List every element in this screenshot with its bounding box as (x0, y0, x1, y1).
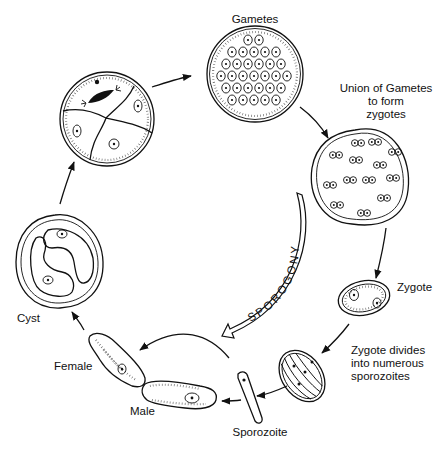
gamete-nucleus (225, 63, 227, 65)
gamete-nucleus (220, 75, 222, 77)
sporozoite-cell (238, 372, 262, 423)
gamete-nucleus (275, 75, 277, 77)
label-gametes: Gametes (232, 13, 279, 25)
gamete-nucleus (264, 51, 266, 53)
zygote-pair-nucleus (380, 197, 382, 199)
gamete-nucleus (242, 51, 244, 53)
zygote-pair-nucleus (352, 159, 354, 161)
gamete-nucleus (242, 99, 244, 101)
centrosome (95, 80, 99, 84)
zygote-pair-nucleus (346, 179, 348, 181)
zygote-pair-nucleus (382, 164, 384, 166)
label-divides-2: into numerous (351, 357, 424, 369)
arrow-to-male (222, 400, 241, 401)
mitotic-spindle-icon (81, 85, 121, 107)
gamete-nucleus (286, 75, 288, 77)
zygote-pair-nucleus (386, 197, 388, 199)
gamete-nucleus (231, 75, 233, 77)
zygote-pair-nucleus (326, 184, 328, 186)
gamete-nucleus (236, 63, 238, 65)
gamete-nucleus (264, 99, 266, 101)
gamete-nucleus (280, 63, 282, 65)
zygote-pair-nucleus (366, 212, 368, 214)
label-sporogony-text: SPOROGONY (245, 243, 300, 324)
cyst-organism (31, 237, 74, 296)
arrow-to-zygotes (300, 107, 328, 138)
zygote-pair-nucleus (376, 164, 378, 166)
gamete-nucleus (247, 39, 249, 41)
gamete-nucleus (280, 87, 282, 89)
dividing-cell (60, 72, 154, 166)
zygote-pair-nucleus (338, 154, 340, 156)
label-cyst: Cyst (17, 312, 41, 324)
gamete-nucleus (225, 87, 227, 89)
gamete-nucleus (253, 75, 255, 77)
label-sporozoite: Sporozoite (233, 426, 288, 438)
gamete-nucleus (253, 99, 255, 101)
gamete-nucleus (236, 87, 238, 89)
zygote-pair-nucleus (389, 177, 391, 179)
gamete-nucleus (242, 75, 244, 77)
zygote-pair-nucleus (391, 151, 393, 153)
zygote-pair-nucleus (339, 204, 341, 206)
gamete-nucleus (269, 63, 271, 65)
gamete-nucleus (258, 63, 260, 65)
arrow-to-female (140, 334, 229, 358)
zygote-pair-nucleus (365, 179, 367, 181)
gamete-nucleus (275, 99, 277, 101)
gamete-nucleus (264, 75, 266, 77)
zygote-pair-nucleus (354, 142, 356, 144)
division-line (106, 118, 152, 133)
zygote-cell (335, 276, 393, 320)
arrow-to-sporocyst (322, 324, 349, 353)
zygote-pair-nucleus (360, 212, 362, 214)
label-divides-3: sporozoites (351, 370, 410, 382)
label-union-3: zygotes (366, 108, 406, 120)
label-female: Female (54, 360, 92, 372)
arrow-to-cyst (72, 312, 84, 330)
gamete-nucleus (247, 63, 249, 65)
gamete-nucleus (258, 39, 260, 41)
zygote-pair-nucleus (371, 141, 373, 143)
gamete-nucleus (275, 51, 277, 53)
label-zygote: Zygote (397, 281, 432, 293)
gamete-nuclei (217, 35, 291, 105)
gamete-nucleus (258, 87, 260, 89)
gamete-nucleus (231, 51, 233, 53)
female-gametocyte (89, 333, 145, 386)
zygote-pairs (324, 139, 402, 217)
gamete-nucleus (231, 99, 233, 101)
arrow-to-sporozoite (257, 386, 287, 396)
zygote-pair-nucleus (360, 142, 362, 144)
zygote-pair-nucleus (333, 204, 335, 206)
label-union-2: to form (368, 95, 404, 107)
zygote-pair-nucleus (397, 151, 399, 153)
life-cycle-diagram: Gametes Union of Gametes to form zygotes… (0, 0, 437, 456)
label-sporogony: SPOROGONY (245, 243, 300, 324)
arrow-to-gametes (152, 76, 191, 87)
zygote-pair-nucleus (371, 179, 373, 181)
label-male: Male (130, 405, 155, 417)
gamete-nucleus (269, 87, 271, 89)
zygote-pair-nucleus (377, 141, 379, 143)
arrow-to-dividing-cell (60, 162, 74, 204)
arrow-to-zygote (376, 228, 386, 278)
sporocyst-cell (270, 342, 335, 411)
zygote-pair-nucleus (395, 177, 397, 179)
zygotes-cell (311, 129, 408, 225)
gamete-nucleus (253, 51, 255, 53)
label-divides-1: Zygote divides (351, 344, 425, 356)
zygote-pair-nucleus (332, 184, 334, 186)
division-line (63, 110, 106, 160)
label-union-1: Union of Gametes (340, 82, 433, 94)
gamete-nucleus (247, 87, 249, 89)
cyst-cell (16, 215, 103, 308)
zygote-pair-nucleus (332, 154, 334, 156)
zygote-pair-nucleus (358, 159, 360, 161)
zygote-pair-nucleus (352, 179, 354, 181)
gametes-cell (207, 26, 303, 122)
